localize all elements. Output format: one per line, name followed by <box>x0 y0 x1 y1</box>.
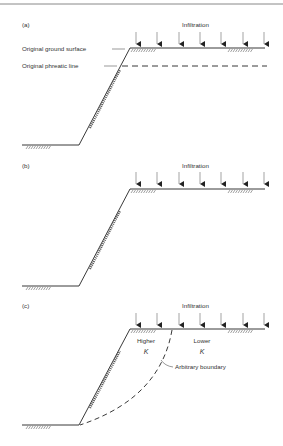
panel-label-a: (a) <box>22 21 30 28</box>
lower-k-symbol: K <box>200 348 205 355</box>
panel-a: (a) Infiltration Original ground surface… <box>22 21 267 149</box>
infiltration-arrows-b <box>136 172 264 184</box>
arbitrary-boundary-line <box>80 330 172 425</box>
infiltration-label-a: Infiltration <box>182 21 209 28</box>
phreatic-line-label: Original phreatic line <box>22 62 79 69</box>
hatch-crest-right-a <box>228 49 253 52</box>
slope-infiltration-diagram: (a) Infiltration Original ground surface… <box>0 0 283 446</box>
hatch-crest-c <box>131 330 156 333</box>
hatch-toe-a <box>26 146 51 149</box>
hatch-toe-c <box>26 426 51 429</box>
hatch-crest-b <box>131 190 156 193</box>
boundary-leader <box>161 360 173 367</box>
slope-hatch-c <box>90 351 120 408</box>
higher-k-symbol: K <box>144 348 149 355</box>
hatch-crest-a <box>131 49 156 52</box>
panel-b: (b) Infiltration <box>22 162 265 290</box>
panel-label-c: (c) <box>22 302 29 309</box>
hatch-toe-b <box>26 287 51 290</box>
panel-c: (c) Infiltration Higher K Lower K Arbitr… <box>22 302 265 429</box>
infiltration-label-b: Infiltration <box>182 162 209 169</box>
hatch-crest-right-c <box>228 330 253 333</box>
slope-hatch-b <box>90 211 120 269</box>
panel-label-b: (b) <box>22 162 30 169</box>
higher-label: Higher <box>137 337 155 344</box>
infiltration-label-c: Infiltration <box>182 302 209 309</box>
infiltration-arrows-c <box>136 313 264 325</box>
ground-profile-b <box>22 189 265 286</box>
lower-label: Lower <box>194 337 211 344</box>
hatch-crest-right-b <box>228 190 253 193</box>
ground-surface-label: Original ground surface <box>22 45 87 52</box>
slope-hatch-a <box>90 70 120 128</box>
infiltration-arrows-a <box>136 32 264 44</box>
arbitrary-boundary-label: Arbitrary boundary <box>175 363 227 370</box>
